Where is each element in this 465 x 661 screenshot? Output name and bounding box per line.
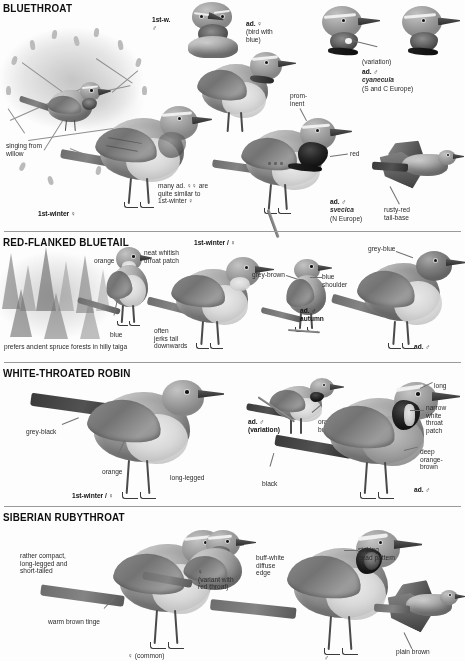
label-plain-brown: plain brown xyxy=(396,648,430,656)
leg xyxy=(268,184,272,210)
label-female-common: ♀ (common) xyxy=(128,652,164,660)
label-female-variant-red-throat: ♀ (variant with red throat) xyxy=(198,568,234,591)
leg xyxy=(384,462,389,494)
label-red: red xyxy=(350,150,360,158)
foot xyxy=(140,492,156,499)
spruce-tree xyxy=(44,293,68,339)
narrow-white-throat-patch xyxy=(404,404,415,426)
leg xyxy=(364,462,369,494)
label-prominent: prom- inent xyxy=(290,92,307,107)
leader-line xyxy=(270,453,275,467)
label-ad-female: ad. ♀ xyxy=(246,20,262,28)
leg xyxy=(227,112,230,132)
label-rather-compact: rather compact, long-legged and short-ta… xyxy=(20,552,67,575)
leader-line xyxy=(344,550,358,551)
willow-bud xyxy=(47,175,55,185)
eye xyxy=(265,61,268,64)
label-deep-orange-brown: deep orange- brown xyxy=(420,448,443,471)
eye xyxy=(422,19,425,22)
label-long: long xyxy=(434,382,446,390)
eye xyxy=(310,265,313,268)
label-narrow-white-throat-patch: narrow white throat patch xyxy=(426,404,446,434)
tail-rusty-base xyxy=(372,161,408,171)
bird-bluetail-ad-male xyxy=(346,249,465,357)
white-spot xyxy=(345,38,352,44)
foot xyxy=(278,208,291,214)
section-title-bluethroat: BLUETHROAT xyxy=(3,2,72,14)
flank-spots xyxy=(268,162,271,165)
willow-bud xyxy=(142,86,147,95)
foot xyxy=(378,492,394,499)
throat-patch-white xyxy=(230,277,250,291)
label-prefers-taiga: prefers ancient spruce forests in hilly … xyxy=(4,343,127,351)
beak xyxy=(453,154,464,159)
label-black: black xyxy=(262,480,277,488)
eye xyxy=(132,255,135,258)
eye xyxy=(416,392,420,396)
label-long-legged: long-legged xyxy=(170,474,204,482)
beak xyxy=(358,17,380,26)
bird-bluethroat-flight xyxy=(368,130,464,206)
label-warm-brown-tinge: warm brown tinge xyxy=(48,618,100,626)
beak xyxy=(446,259,465,266)
section-divider xyxy=(4,231,461,232)
label-svecica-range: (N Europe) xyxy=(330,215,362,223)
foot xyxy=(140,202,154,208)
label-blue: blue xyxy=(110,331,122,339)
label-blue-shoulder: blue shoulder xyxy=(322,273,347,288)
foot xyxy=(388,343,401,349)
section-divider xyxy=(4,506,461,507)
leg xyxy=(406,321,410,345)
label-striking-head-pattern: striking head pattern xyxy=(358,546,395,561)
willow-bud xyxy=(18,161,26,171)
eye xyxy=(200,15,203,18)
label-orange: orange xyxy=(102,468,123,476)
eye xyxy=(185,390,189,394)
label-ad-male-autumn: ad. ♂ autumn xyxy=(300,307,324,322)
leg xyxy=(146,460,151,494)
label-ad-male: ad. ♂ xyxy=(414,486,430,494)
leg xyxy=(200,321,204,345)
beak xyxy=(140,255,152,261)
beak xyxy=(438,17,460,26)
tail-warm-brown xyxy=(40,584,125,607)
section-siberian-rubythroat: SIBERIAN RUBYTHROAT rather compact, long… xyxy=(0,506,465,661)
foot xyxy=(210,343,223,349)
flank-spots xyxy=(274,162,277,165)
beak xyxy=(318,265,332,271)
leg xyxy=(128,178,132,204)
leader-line xyxy=(410,410,424,411)
section-white-throated-robin: WHITE-THROATED ROBIN grey-black orange l… xyxy=(0,362,465,494)
beak xyxy=(198,390,224,398)
foot xyxy=(129,321,140,326)
label-first-winter-female: 1st-winter / ♀ xyxy=(72,492,114,500)
eye xyxy=(90,89,93,92)
section-bluethroat: BLUETHROAT xyxy=(0,0,465,230)
beak xyxy=(394,540,422,549)
leg xyxy=(154,610,159,644)
foot xyxy=(360,492,376,499)
label-first-winter-female: 1st-winter ♀ xyxy=(38,210,76,218)
foot xyxy=(342,648,358,655)
spruce-tree xyxy=(10,289,32,337)
foot xyxy=(196,343,209,349)
beak xyxy=(432,392,460,401)
label-grey-black: grey-black xyxy=(26,428,56,436)
foot xyxy=(124,202,138,208)
eye xyxy=(226,540,229,543)
label-grey-brown: grey-brown xyxy=(252,271,285,279)
label-rusty-red-tail-base: rusty-red tail-base xyxy=(384,206,410,221)
section-red-flanked-bluetail: RED-FLANKED BLUETAIL prefers ancient spr… xyxy=(0,231,465,361)
label-often-jerks-tail: often jerks tail downwards xyxy=(154,327,187,350)
bird-robin-first-winter-female xyxy=(30,374,240,490)
label-ad-male-variation: ad. ♂ (variation) xyxy=(248,418,280,433)
field-guide-page: BLUETHROAT xyxy=(0,0,465,661)
bird-robin-ad-male xyxy=(290,378,465,496)
willow-bud xyxy=(6,86,11,95)
leg xyxy=(392,321,396,345)
label-cyanecula-range: (S and C Europe) xyxy=(362,85,413,93)
foot xyxy=(168,642,184,649)
leg xyxy=(348,616,353,650)
label-svecica-sci: svecica xyxy=(330,206,354,214)
label-ad-male: ad. ♂ xyxy=(414,343,430,351)
